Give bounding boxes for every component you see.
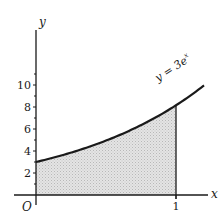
y-axis-label: y (38, 15, 46, 29)
curve-equation-label: y = 3ex (151, 51, 193, 85)
origin-label: O (22, 200, 32, 214)
x-axis-ticks: 1 (173, 195, 180, 213)
y-axis-ticks: 246810 (17, 74, 36, 184)
y-tick-label: 4 (24, 145, 31, 158)
y-tick-label: 6 (24, 123, 31, 136)
chart-figure: 246810 1 y x O y = 3ex (0, 0, 221, 221)
x-axis-label: x (211, 187, 218, 201)
y-tick-label: 2 (24, 167, 31, 180)
plot-area: 246810 1 y x O y = 3ex (0, 0, 221, 221)
y-tick-label: 10 (17, 79, 31, 92)
y-tick-label: 8 (24, 101, 31, 114)
x-tick-label: 1 (173, 200, 180, 213)
